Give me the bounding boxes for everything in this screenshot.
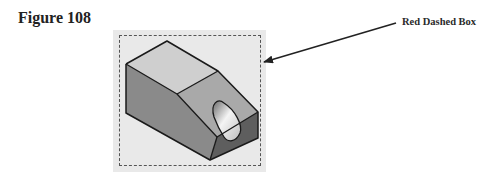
figure-graphics bbox=[0, 0, 497, 183]
callout-arrow bbox=[264, 23, 396, 62]
block-model bbox=[126, 41, 258, 160]
